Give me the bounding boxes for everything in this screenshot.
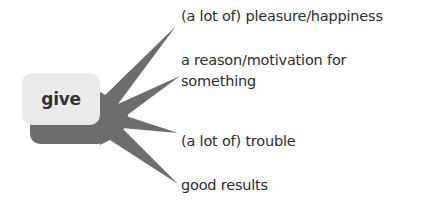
branch-reason-line1: a reason/motivation for xyxy=(181,50,346,71)
branch-trouble: (a lot of) trouble xyxy=(181,131,296,152)
branch-pleasure: (a lot of) pleasure/happiness xyxy=(181,6,383,27)
center-node-label: give xyxy=(41,89,80,109)
branch-good-results: good results xyxy=(181,175,268,196)
center-node: give xyxy=(22,73,100,125)
branch-reason: a reason/motivation for something xyxy=(181,50,346,92)
branch-reason-line2: something xyxy=(181,71,346,92)
